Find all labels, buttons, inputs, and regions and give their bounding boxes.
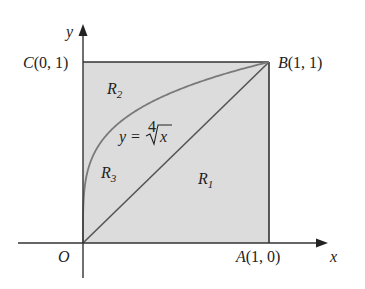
svg-text:=: = xyxy=(131,128,140,145)
svg-text:4: 4 xyxy=(148,118,156,135)
x-axis-label: x xyxy=(329,248,337,265)
point-a-label: A(1, 0) xyxy=(235,248,280,266)
point-b-label: B(1, 1) xyxy=(278,54,322,72)
svg-text:y: y xyxy=(117,128,127,146)
y-axis-label: y xyxy=(64,23,74,41)
point-c-label: C(0, 1) xyxy=(23,54,68,72)
region-diagram: y x O C(0, 1) B(1, 1) A(1, 0) R2 R3 R1 y… xyxy=(0,0,365,289)
y-axis-arrow-icon xyxy=(79,24,88,36)
svg-text:x: x xyxy=(159,128,167,145)
origin-label: O xyxy=(58,248,70,265)
x-axis-arrow-icon xyxy=(316,239,328,248)
